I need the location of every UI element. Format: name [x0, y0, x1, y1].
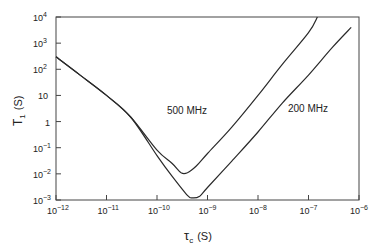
- y-tick-label: 10−2: [33, 168, 51, 180]
- y-tick-label: 10−1: [33, 142, 51, 154]
- y-tick-label: 1: [45, 118, 50, 128]
- x-tick-label: 10−8: [249, 204, 267, 216]
- y-axis-ticks: 10410310210110−110−210−3: [33, 11, 61, 206]
- x-tick-label: 10−12: [47, 204, 69, 216]
- annotation-500mhz: 500 MHz: [167, 105, 207, 116]
- x-tick-label: 10−11: [98, 204, 119, 216]
- y-axis-title: T1(S): [11, 96, 27, 126]
- x-tick-label: 10−9: [199, 204, 217, 216]
- x-axis-ticks: 10−1210−1110−1010−910−810−710−6: [47, 195, 368, 216]
- y-tick-label: 104: [33, 11, 47, 23]
- x-axis-title: τc(S): [184, 228, 212, 245]
- t1-vs-tauc-chart: 10−1210−1110−1010−910−810−710−6 10410310…: [0, 0, 382, 252]
- x-tick-label: 10−6: [350, 204, 368, 216]
- curve-500mhz: [56, 17, 317, 174]
- x-tick-label: 10−10: [148, 204, 170, 216]
- y-tick-label: 103: [33, 37, 47, 49]
- annotation-200mhz: 200 MHz: [288, 103, 328, 114]
- y-tick-label: 10: [38, 91, 48, 101]
- y-tick-label: 102: [33, 63, 47, 75]
- x-tick-label: 10−7: [300, 204, 318, 216]
- y-tick-label: 10−3: [33, 194, 51, 206]
